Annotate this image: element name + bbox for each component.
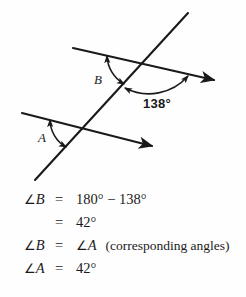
geometry-diagram-svg: B A 138° [0,0,246,182]
equals-sign: = [50,210,68,234]
angle-symbol: ∠ [24,261,36,276]
proof-step-3: ∠B=∠A(corresponding angles) [0,233,246,257]
given-angle-label: 138° [143,96,171,111]
angle-variable: A [88,237,97,253]
proof-step-2: =42° [0,210,246,234]
equals-sign: = [50,187,68,211]
angle-138-arc [125,76,188,94]
equals-sign: = [50,256,68,280]
proof-step-4: ∠A=42° [0,256,246,280]
proof-step-1: ∠B=180° − 138° [0,187,246,211]
geometry-figure: B A 138° [0,0,246,182]
angle-variable: B [36,237,45,253]
angle-symbol: ∠ [24,192,36,207]
proof-step-1-rhs: 180° − 138° [68,187,147,211]
proof-step-3-rhs: ∠A(corresponding angles) [68,233,230,258]
proof-steps: ∠B=180° − 138° =42° ∠B=∠A(corresponding … [0,182,246,297]
proof-step-3-note: (corresponding angles) [97,238,230,253]
proof-step-1-lhs: ∠B [0,187,50,212]
angle-b-arc [107,56,124,84]
angle-symbol: ∠ [76,238,88,253]
angle-b-label: B [94,72,102,87]
proof-step-3-lhs: ∠B [0,233,50,258]
equals-sign: = [50,233,68,257]
proof-step-4-rhs: 42° [68,256,96,280]
angle-a-label: A [37,130,46,145]
angle-variable: A [36,260,45,276]
angle-variable: B [36,191,45,207]
proof-step-4-lhs: ∠A [0,256,50,281]
angle-symbol: ∠ [24,238,36,253]
proof-step-2-rhs: 42° [68,210,96,234]
